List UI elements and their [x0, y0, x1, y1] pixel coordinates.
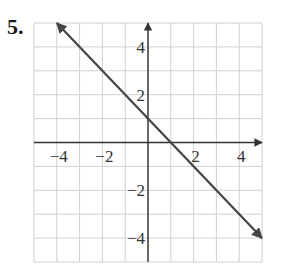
x-tick-label: 4 [237, 147, 246, 166]
x-tick-label: 2 [191, 147, 200, 166]
y-tick-label: 2 [137, 86, 146, 105]
line-y-equals-neg-x-plus-1 [57, 23, 262, 238]
x-tick-label: −2 [95, 147, 113, 166]
x-tick-label: −4 [50, 147, 69, 166]
y-tick-label: −4 [127, 229, 146, 248]
plotted-line [57, 23, 262, 238]
y-tick-label: 4 [137, 38, 146, 57]
coordinate-plane: −4−22442−2−4 [0, 0, 285, 278]
axes [34, 23, 262, 262]
y-tick-label: −2 [127, 181, 145, 200]
